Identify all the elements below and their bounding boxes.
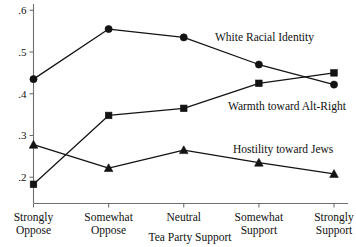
series-label-group: White Racial IdentityWarmth toward Alt-R…	[215, 31, 347, 156]
y-tick-label: .4	[18, 88, 27, 100]
data-point-marker	[180, 105, 187, 112]
data-point-marker	[105, 112, 112, 119]
x-tick-label: Neutral	[167, 211, 201, 223]
x-axis-title: Tea Party Support	[149, 231, 233, 244]
series-label-0: White Racial Identity	[215, 31, 314, 44]
data-point-marker	[30, 181, 37, 188]
data-point-marker	[331, 70, 338, 77]
data-point-marker	[179, 146, 188, 154]
x-tick-label: StronglySupport	[314, 211, 354, 237]
x-tick-label: SomewhatOppose	[84, 211, 133, 237]
chart-figure: .2.3.4.5.6 StronglyOpposeSomewhatOpposeN…	[0, 0, 356, 247]
data-point-marker	[105, 25, 112, 32]
series-label-1: Warmth toward Alt-Right	[228, 100, 347, 113]
data-point-marker	[256, 80, 263, 87]
y-tick-group: .2.3.4.5.6	[18, 4, 33, 183]
y-tick-label: .3	[18, 129, 27, 141]
x-tick-label: StronglyOppose	[14, 211, 54, 237]
data-point-marker	[180, 34, 187, 41]
y-tick-label: .5	[18, 46, 27, 58]
x-tick-label: SomewhatSupport	[235, 211, 284, 237]
data-point-marker	[29, 140, 38, 148]
data-point-marker	[30, 76, 37, 83]
data-point-marker	[330, 81, 337, 88]
y-tick-label: .6	[18, 4, 27, 16]
series-label-2: Hostility toward Jews	[233, 143, 334, 156]
y-tick-label: .2	[18, 171, 26, 183]
data-point-marker	[255, 61, 262, 68]
line-chart: .2.3.4.5.6 StronglyOpposeSomewhatOpposeN…	[0, 0, 356, 247]
